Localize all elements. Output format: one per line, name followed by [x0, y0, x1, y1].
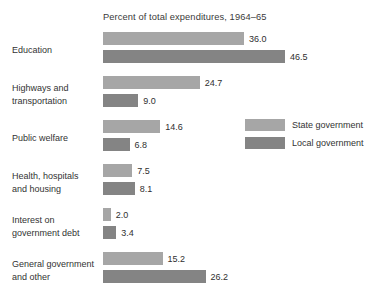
chart-title: Percent of total expenditures, 1964–65	[103, 12, 267, 22]
bar-rect	[103, 252, 163, 265]
plot-area: Education36.046.5Highways and transporta…	[0, 28, 376, 286]
bar-value-label: 36.0	[249, 34, 267, 44]
category-label: Highways and transportation	[12, 82, 100, 107]
legend-swatch-icon	[245, 137, 285, 149]
bar-rect	[103, 94, 138, 107]
category-label: Interest on government debt	[12, 214, 100, 239]
bar-value-label: 9.0	[143, 96, 156, 106]
bar-value-label: 7.5	[137, 166, 150, 176]
bar-rect	[103, 270, 206, 283]
bar-rect	[103, 226, 116, 239]
bar-rect	[103, 32, 244, 45]
category-label: General government and other	[12, 258, 100, 283]
bar-rect	[103, 76, 200, 89]
chart-row: Education36.046.5	[0, 28, 376, 72]
legend-label: State government	[292, 120, 363, 130]
bar-value-label: 26.2	[211, 272, 229, 282]
chart-row: Health, hospitals and housing7.58.1	[0, 160, 376, 204]
bar-value-label: 2.0	[116, 210, 129, 220]
chart-row: Interest on government debt2.03.4	[0, 204, 376, 248]
chart-row: Highways and transportation24.79.0	[0, 72, 376, 116]
bar-rect	[103, 164, 132, 177]
bar-chart: Percent of total expenditures, 1964–65 E…	[0, 0, 376, 286]
bar-rect	[103, 182, 135, 195]
chart-legend: State governmentLocal government	[245, 118, 364, 154]
bar-value-label: 14.6	[165, 122, 183, 132]
category-label: Health, hospitals and housing	[12, 170, 100, 195]
bar-value-label: 8.1	[140, 184, 153, 194]
bar-rect	[103, 120, 160, 133]
bar-value-label: 15.2	[168, 254, 186, 264]
legend-item-state: State government	[245, 118, 364, 132]
bar-rect	[103, 50, 285, 63]
bar-value-label: 24.7	[205, 78, 223, 88]
legend-item-local: Local government	[245, 136, 364, 150]
bar-value-label: 46.5	[290, 52, 308, 62]
bar-rect	[103, 138, 130, 151]
legend-label: Local government	[292, 138, 364, 148]
chart-row: General government and other15.226.2	[0, 248, 376, 286]
category-label: Public welfare	[12, 132, 100, 145]
category-label: Education	[12, 44, 100, 57]
legend-swatch-icon	[245, 119, 285, 131]
bar-rect	[103, 208, 111, 221]
bar-value-label: 6.8	[135, 140, 148, 150]
bar-value-label: 3.4	[121, 228, 134, 238]
